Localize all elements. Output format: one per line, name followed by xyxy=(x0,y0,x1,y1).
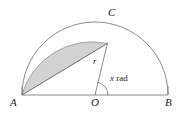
label-point-b: B xyxy=(165,97,172,108)
label-angle-variable: x xyxy=(110,73,114,83)
angle-arc xyxy=(97,82,108,95)
label-radius: r xyxy=(93,57,97,66)
label-point-c: C xyxy=(108,7,115,18)
label-point-a: A xyxy=(10,97,17,108)
label-angle-unit: rad xyxy=(116,73,128,83)
label-angle: x rad xyxy=(110,74,128,83)
label-point-o: O xyxy=(91,97,99,108)
